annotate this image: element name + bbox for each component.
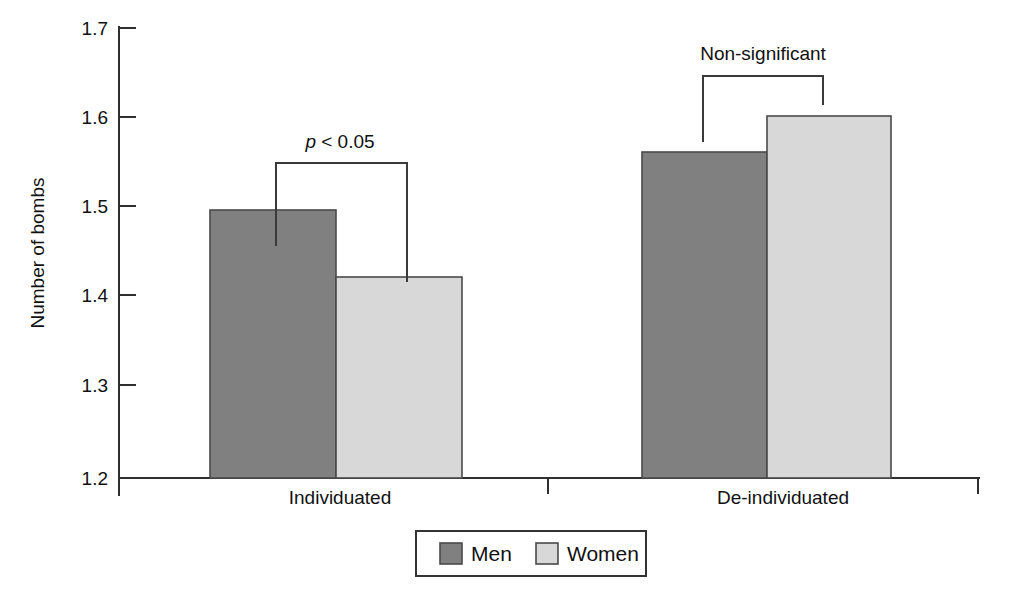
non-significant-label: Non-significant (700, 43, 826, 64)
y-tick-label-1.3: 1.3 (82, 375, 108, 396)
legend-swatch-women (536, 543, 558, 564)
y-tick-label-1.2: 1.2 (82, 468, 108, 489)
chart-canvas: 1.7 1.6 1.5 1.4 1.3 1.2 Number of bombs … (0, 0, 1012, 597)
bar-individuated-men (210, 210, 336, 478)
bar-de-individuated-women (767, 116, 891, 478)
x-axis: Individuated De-individuated (119, 478, 980, 508)
p-value-label: p < 0.05 (304, 131, 374, 152)
y-tick-label-1.7: 1.7 (82, 18, 108, 39)
bar-de-individuated-men (642, 152, 767, 478)
bar-individuated-women (336, 277, 462, 478)
bar-chart-figure: 1.7 1.6 1.5 1.4 1.3 1.2 Number of bombs … (0, 0, 1012, 597)
legend-item-men: Men (440, 542, 512, 565)
bar-group-de-individuated (642, 116, 891, 478)
y-tick-label-1.5: 1.5 (82, 196, 108, 217)
y-axis: 1.7 1.6 1.5 1.4 1.3 1.2 Number of bombs (27, 18, 136, 496)
legend-label-men: Men (471, 542, 512, 565)
x-category-label-individuated: Individuated (289, 487, 391, 508)
legend: Men Women (416, 531, 646, 576)
legend-item-women: Women (536, 542, 639, 565)
x-category-label-de-individuated: De-individuated (717, 487, 849, 508)
y-tick-label-1.6: 1.6 (82, 107, 108, 128)
legend-label-women: Women (567, 542, 639, 565)
legend-swatch-men (440, 543, 462, 564)
p-value-rest: < 0.05 (316, 131, 375, 152)
bar-group-individuated (210, 210, 462, 478)
y-axis-title: Number of bombs (27, 177, 48, 328)
y-tick-label-1.4: 1.4 (82, 285, 109, 306)
p-value-symbol: p (304, 131, 316, 152)
